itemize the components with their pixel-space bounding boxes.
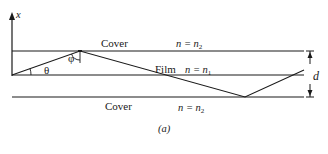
top-cover-index-subscript: 2	[199, 43, 203, 51]
axis-arrowhead-icon	[9, 12, 15, 20]
film-index-subscript: 1	[208, 69, 212, 77]
top-cover-index-text: n = n	[176, 38, 199, 49]
theta-angle-arc	[30, 69, 31, 75]
slab-waveguide-diagram: x Cover n = n2 Film n = n1 Cover n = n2 …	[0, 0, 328, 154]
figure-caption: (a)	[158, 124, 170, 135]
film-label: Film	[155, 64, 176, 75]
top-cover-label: Cover	[101, 38, 128, 49]
reflection-point-mark	[78, 50, 82, 52]
x-axis	[9, 12, 15, 76]
bottom-cover-index: n = n2	[178, 103, 204, 115]
dimension-arrow-down-icon	[308, 90, 313, 96]
film-index: n = n1	[185, 65, 211, 77]
bottom-cover-index-text: n = n	[178, 102, 201, 113]
bottom-cover-index-subscript: 2	[201, 107, 205, 115]
thickness-label: d	[313, 70, 319, 82]
axis-label-x: x	[16, 10, 21, 21]
bottom-cover-label: Cover	[105, 101, 132, 112]
phi-label: φ	[68, 53, 74, 64]
film-index-text: n = n	[185, 64, 208, 75]
dimension-arrow-up-icon	[308, 52, 313, 58]
theta-label: θ	[44, 65, 49, 76]
top-cover-index: n = n2	[176, 39, 202, 51]
